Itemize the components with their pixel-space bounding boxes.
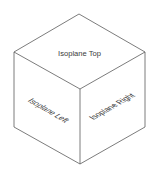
isometric-cube-diagram: Isoplane Top Isoplane Left Isoplane Righ… <box>0 0 153 172</box>
label-isoplane-top: Isoplane Top <box>58 49 101 58</box>
cube-canvas: Isoplane Top Isoplane Left Isoplane Righ… <box>0 0 153 172</box>
